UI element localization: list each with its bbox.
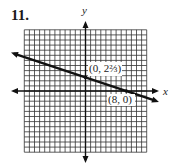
- y-axis-down-arrow-icon: [83, 156, 89, 163]
- point-b-label: (8, 0): [108, 93, 132, 106]
- y-axis-label: y: [81, 4, 87, 16]
- line-right-arrow-icon: [151, 97, 159, 103]
- x-axis-label: x: [162, 85, 168, 97]
- point-a-label: (0, 2⅔): [89, 62, 121, 75]
- coordinate-graph: (0, 2⅔) (8, 0) x y: [0, 0, 185, 167]
- y-axis-up-arrow-icon: [83, 21, 89, 28]
- x-axis-right-arrow-icon: [152, 88, 159, 94]
- line-left-arrow-icon: [11, 52, 19, 58]
- x-axis-left-arrow-icon: [11, 88, 18, 94]
- point-y-intercept: [84, 76, 88, 80]
